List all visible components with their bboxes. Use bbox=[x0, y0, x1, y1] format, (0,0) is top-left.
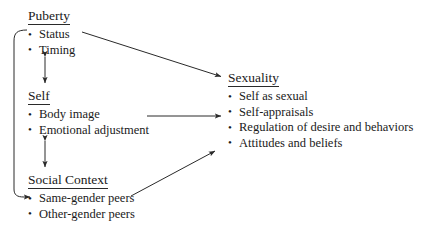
group-social-context: Social Context Same-gender peers Other-g… bbox=[28, 170, 135, 222]
list-item: Attitudes and beliefs bbox=[228, 136, 413, 152]
list-item: Self-appraisals bbox=[228, 105, 413, 121]
group-sexuality: Sexuality Self as sexual Self-appraisals… bbox=[228, 68, 413, 151]
group-puberty-items: Status Timing bbox=[28, 27, 75, 58]
group-puberty: Puberty Status Timing bbox=[28, 6, 75, 58]
group-social-context-heading: Social Context bbox=[28, 172, 108, 189]
list-item: Regulation of desire and behaviors bbox=[228, 120, 413, 136]
list-item: Other-gender peers bbox=[28, 207, 135, 223]
list-item: Body image bbox=[28, 107, 149, 123]
connector-social-context-to-sexuality bbox=[131, 151, 215, 196]
connector-puberty-to-sexuality bbox=[82, 32, 221, 77]
group-self: Self Body image Emotional adjustment bbox=[28, 86, 149, 138]
list-item: Status bbox=[28, 27, 75, 43]
group-self-heading: Self bbox=[28, 88, 50, 105]
concept-diagram: Puberty Status Timing Self Body image Em… bbox=[0, 0, 421, 231]
list-item: Same-gender peers bbox=[28, 191, 135, 207]
group-puberty-heading: Puberty bbox=[28, 8, 70, 25]
group-sexuality-heading: Sexuality bbox=[228, 70, 279, 87]
list-item: Timing bbox=[28, 43, 75, 59]
group-social-context-items: Same-gender peers Other-gender peers bbox=[28, 191, 135, 222]
group-sexuality-items: Self as sexual Self-appraisals Regulatio… bbox=[228, 89, 413, 151]
list-item: Emotional adjustment bbox=[28, 123, 149, 139]
group-self-items: Body image Emotional adjustment bbox=[28, 107, 149, 138]
list-item: Self as sexual bbox=[228, 89, 413, 105]
